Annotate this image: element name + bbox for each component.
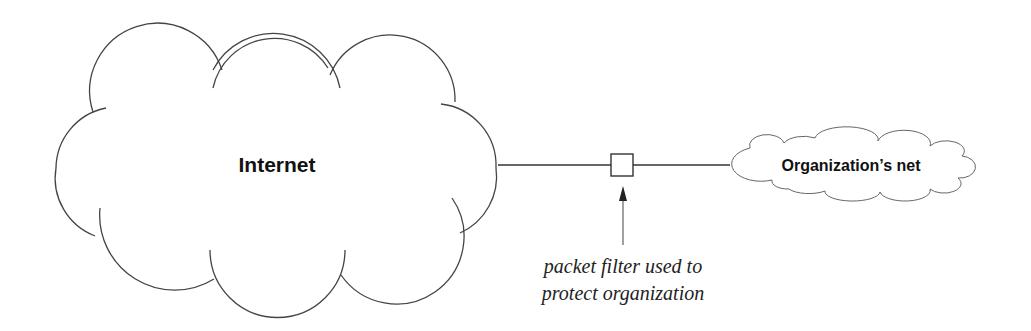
org-net-label: Organization’s net: [782, 157, 922, 174]
arrow-up-icon: [619, 186, 627, 245]
internet-label: Internet: [238, 153, 315, 176]
annotation-line-1: packet filter used to: [542, 255, 702, 278]
annotation-line-2: protect organization: [540, 282, 704, 305]
packet-filter-box: [611, 154, 633, 176]
diagram-canvas: Internet Organization’s net packet filte…: [0, 0, 1031, 331]
